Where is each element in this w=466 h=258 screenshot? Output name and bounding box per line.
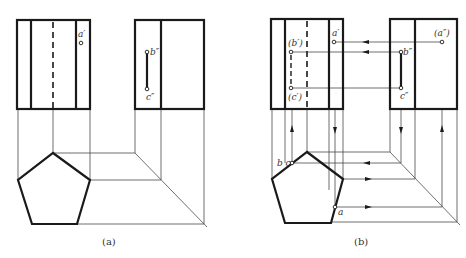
figure-b: a′ (b′) (c′) (a″) b″ c″ b c a (b) — [271, 19, 460, 247]
label-b-double-prime: b″ — [150, 47, 160, 57]
arrow-right-icon — [365, 177, 372, 181]
arrow-left-icon — [363, 161, 370, 165]
pentagon-top-view-a — [18, 153, 90, 224]
point-c-double-prime — [145, 87, 149, 91]
point-a-prime — [79, 41, 83, 45]
label-bc: b c — [277, 158, 291, 168]
point-bc — [290, 161, 294, 165]
label-c-prime: (c′) — [288, 92, 303, 102]
arrow-up-icon — [440, 125, 444, 132]
label-c-double-prime: c″ — [146, 92, 155, 102]
label-b-prime: (b′) — [288, 38, 303, 48]
point-b-prime — [289, 50, 293, 54]
caption-a: (a) — [102, 236, 116, 247]
point-a-double-prime — [440, 40, 444, 44]
arrow-down-icon — [399, 127, 403, 134]
miter-line-a — [135, 153, 207, 227]
figure-a: a′ b″ c″ (a) — [17, 20, 207, 247]
label-a-prime: a′ — [78, 29, 85, 39]
projection-lines-a — [18, 109, 207, 227]
label-a: a — [338, 207, 343, 217]
label-a-prime: a′ — [332, 28, 339, 38]
arrow-up-icon — [290, 125, 294, 132]
arrow-right-icon — [365, 205, 372, 209]
projection-lines-b — [272, 42, 460, 225]
arrow-down-icon — [333, 127, 337, 134]
point-c-prime — [289, 86, 293, 90]
point-c-double-prime — [399, 86, 403, 90]
point-a-prime — [332, 40, 336, 44]
label-b-double-prime: b″ — [403, 47, 413, 57]
point-b-double-prime — [145, 50, 149, 54]
miter-line-b — [390, 152, 460, 225]
point-a — [333, 205, 337, 209]
arrow-left-icon — [362, 50, 369, 54]
label-c-double-prime: c″ — [400, 91, 409, 101]
projection-diagram: a′ b″ c″ (a) — [0, 0, 466, 258]
arrow-left-icon — [362, 40, 369, 44]
caption-b: (b) — [354, 236, 368, 247]
label-a-double-prime: (a″) — [434, 28, 450, 38]
